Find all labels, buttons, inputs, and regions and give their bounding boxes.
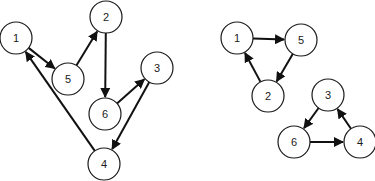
- node-left-1: 1: [0, 22, 32, 54]
- edge-left-1-to-5: [29, 48, 55, 69]
- edge-right-4-to-3: [338, 109, 351, 129]
- node-right-6: 6: [278, 126, 310, 158]
- edge-right-2-to-1: [245, 53, 261, 82]
- node-label: 6: [291, 136, 297, 148]
- node-label: 1: [234, 32, 240, 44]
- node-label: 2: [103, 11, 109, 23]
- node-left-4: 4: [88, 148, 120, 180]
- node-label: 4: [357, 136, 363, 148]
- node-label: 3: [325, 89, 331, 101]
- node-label: 3: [154, 62, 160, 74]
- right-graph: 152364: [221, 22, 375, 158]
- node-right-3: 3: [312, 79, 344, 111]
- node-left-2: 2: [90, 1, 122, 33]
- node-left-3: 3: [141, 52, 173, 84]
- node-right-2: 2: [252, 80, 284, 112]
- node-label: 5: [298, 34, 304, 46]
- node-label: 1: [13, 32, 19, 44]
- node-left-5: 5: [52, 63, 84, 95]
- node-label: 5: [65, 73, 71, 85]
- edge-right-1-to-5: [253, 39, 284, 40]
- edge-right-3-to-6: [304, 108, 319, 128]
- edge-right-5-to-2: [277, 54, 293, 82]
- node-label: 6: [102, 108, 108, 120]
- node-right-1: 1: [221, 22, 253, 54]
- left-graph: 123456: [0, 1, 173, 180]
- node-left-6: 6: [89, 98, 121, 130]
- edge-left-2-to-6: [105, 33, 106, 97]
- edge-left-5-to-2: [76, 32, 97, 66]
- node-label: 4: [101, 158, 107, 170]
- node-right-4: 4: [344, 126, 375, 158]
- node-label: 2: [265, 90, 271, 102]
- node-right-5: 5: [285, 24, 317, 56]
- graph-diagram: 123456 152364: [0, 0, 375, 181]
